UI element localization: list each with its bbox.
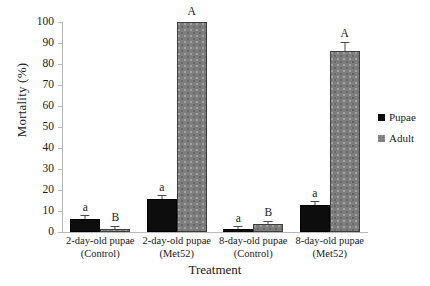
significance-label: a xyxy=(312,188,317,200)
significance-label: a xyxy=(159,182,164,194)
y-tick-label: 60 xyxy=(43,100,55,112)
x-tick-label-line2: (Control) xyxy=(215,248,292,261)
x-axis-title: Treatment xyxy=(62,262,368,278)
bar-adult[interactable] xyxy=(100,229,130,232)
x-tick-label: 8-day-old pupae(Control) xyxy=(215,235,292,260)
bar-groups: aBaAaBaA xyxy=(62,22,368,232)
bar-group: aA xyxy=(292,22,369,232)
x-tick-label-line1: 2-day-old pupae xyxy=(66,235,135,246)
bar-group: aB xyxy=(62,22,139,232)
bar-slot: B xyxy=(253,22,283,232)
bar-adult[interactable] xyxy=(253,224,283,232)
bar-pupae[interactable] xyxy=(70,219,100,232)
x-tick-label-line1: 2-day-old pupae xyxy=(142,235,211,246)
plot-area: 0102030405060708090100 aBaAaBaA xyxy=(62,22,368,232)
significance-label: a xyxy=(236,213,241,225)
legend-swatch-icon xyxy=(378,135,385,142)
y-tick-label: 0 xyxy=(48,226,54,238)
y-tick-label: 100 xyxy=(37,16,54,28)
bar-slot: a xyxy=(223,22,253,232)
bar-adult[interactable] xyxy=(177,22,207,232)
legend-item-adult[interactable]: Adult xyxy=(378,133,416,144)
legend-label: Pupae xyxy=(389,112,416,123)
bar-slot: a xyxy=(147,22,177,232)
x-tick-label-line2: (Met52) xyxy=(139,248,216,261)
legend-swatch-icon xyxy=(378,114,385,121)
bar-group: aB xyxy=(215,22,292,232)
bar-pupae[interactable] xyxy=(147,199,177,232)
x-axis-line xyxy=(62,232,368,233)
mortality-bar-chart: Mortality (%) 0102030405060708090100 aBa… xyxy=(0,0,430,286)
bar-slot: a xyxy=(70,22,100,232)
chart-legend: PupaeAdult xyxy=(378,112,416,144)
bar-pair: aA xyxy=(139,22,216,232)
bar-pair: aB xyxy=(215,22,292,232)
bar-pupae[interactable] xyxy=(300,205,330,232)
y-tick-label: 10 xyxy=(43,205,55,217)
bar-slot: A xyxy=(330,22,360,232)
bar-slot: a xyxy=(300,22,330,232)
bar-adult[interactable] xyxy=(330,51,360,232)
bar-pupae[interactable] xyxy=(223,229,253,232)
significance-label: a xyxy=(83,202,88,214)
significance-label: B xyxy=(111,212,119,224)
bar-pair: aB xyxy=(62,22,139,232)
y-tick-label: 70 xyxy=(43,79,55,91)
y-axis-title: Mortality (%) xyxy=(14,40,30,160)
bar-slot: B xyxy=(100,22,130,232)
bar-group: aA xyxy=(139,22,216,232)
legend-label: Adult xyxy=(389,133,414,144)
y-tick-label: 40 xyxy=(43,142,55,154)
x-tick-label-line2: (Control) xyxy=(62,248,139,261)
y-tick-label: 30 xyxy=(43,163,55,175)
legend-item-pupae[interactable]: Pupae xyxy=(378,112,416,123)
significance-label: A xyxy=(188,6,196,18)
x-tick-label-line1: 8-day-old pupae xyxy=(295,235,364,246)
significance-label: A xyxy=(341,28,349,40)
y-tick-label: 90 xyxy=(43,37,55,49)
x-axis-tick-labels: 2-day-old pupae(Control)2-day-old pupae(… xyxy=(62,235,368,260)
x-tick-label-line1: 8-day-old pupae xyxy=(219,235,288,246)
y-tick-label: 50 xyxy=(43,121,55,133)
y-tick-label: 80 xyxy=(43,58,55,70)
x-tick-label: 8-day-old pupae(Met52) xyxy=(292,235,369,260)
x-tick-label: 2-day-old pupae(Control) xyxy=(62,235,139,260)
significance-label: B xyxy=(264,207,272,219)
y-tick-mark xyxy=(58,232,63,233)
bar-pair: aA xyxy=(292,22,369,232)
x-tick-label-line2: (Met52) xyxy=(292,248,369,261)
bar-slot: A xyxy=(177,22,207,232)
y-tick-label: 20 xyxy=(43,184,55,196)
error-bar xyxy=(344,42,345,51)
x-tick-label: 2-day-old pupae(Met52) xyxy=(139,235,216,260)
